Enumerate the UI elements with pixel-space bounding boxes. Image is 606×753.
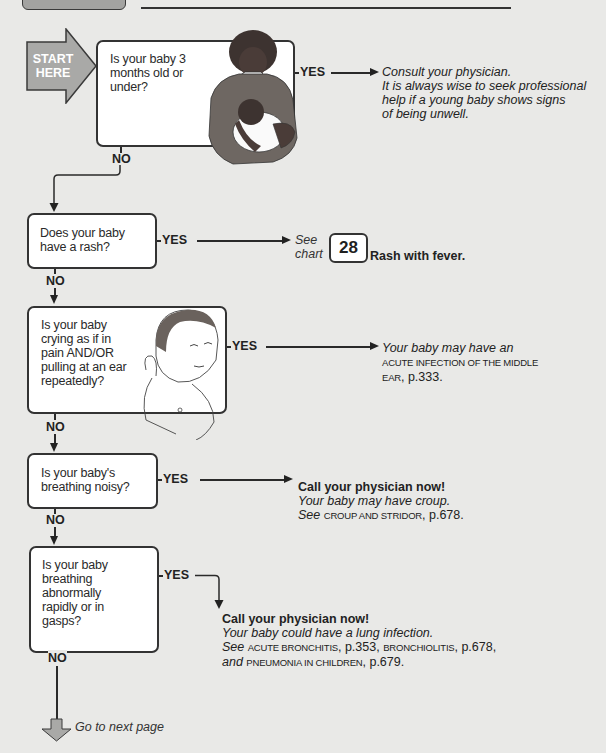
no-label-noisy-breathing: NO: [46, 513, 65, 527]
yes-line-noisy-breathing: [200, 479, 284, 481]
yes-line-age: [331, 72, 371, 74]
baby-pulling-ear-illustration: [136, 300, 228, 440]
chart-number-badge[interactable]: 28: [329, 233, 368, 263]
no-label-rash: NO: [46, 274, 65, 288]
yes-label-age: YES: [300, 65, 325, 79]
arrow-right-icon: [282, 236, 291, 244]
answer-rapid-breathing: Call your physician now! Your baby could…: [222, 612, 522, 670]
yes-label-ear: YES: [232, 339, 257, 353]
yes-connector-stub: [158, 479, 162, 481]
start-here-label: START HERE: [30, 52, 76, 80]
question-text-age: Is your baby 3 months old or under?: [110, 52, 186, 94]
next-page-arrow-icon[interactable]: [41, 718, 73, 742]
yes-label-rapid-breathing: YES: [164, 568, 189, 582]
question-text-noisy-breathing: Is your baby's breathing noisy?: [41, 466, 130, 494]
arrow-down-icon: [50, 443, 58, 452]
arrow-right-icon: [370, 342, 379, 350]
yes-connector-stub: [227, 346, 231, 348]
arrow-down-icon: [50, 295, 58, 304]
yes-connector-stub: [295, 72, 299, 74]
arrow-down-icon: [50, 536, 58, 545]
yes-connector-stub: [159, 575, 163, 577]
header-rule: [141, 7, 511, 9]
answer-noisy-breathing: Call your physician now! Your baby may h…: [298, 480, 558, 523]
yes-line-rash: [197, 240, 282, 242]
question-text-rapid-breathing: Is your baby breathing abnormally rapidl…: [42, 558, 108, 628]
arrow-right-icon: [284, 475, 293, 483]
mother-holding-baby-illustration: [203, 28, 299, 168]
answer-age: Consult your physician. It is always wis…: [382, 65, 606, 121]
no-label-ear: NO: [46, 420, 65, 434]
question-text-ear: Is your baby crying as if in pain AND/OR…: [41, 318, 127, 388]
next-page-link[interactable]: Go to next page: [75, 720, 164, 734]
yes-connector-stub: [157, 240, 161, 242]
yes-line-ear: [266, 346, 370, 348]
no-label-rapid-breathing: NO: [48, 650, 67, 666]
question-text-rash: Does your baby have a rash?: [40, 226, 125, 254]
section-tab: [22, 0, 126, 10]
yes-label-noisy-breathing: YES: [163, 472, 188, 486]
chart-title-link[interactable]: Rash with fever.: [370, 249, 465, 263]
arrow-right-icon: [370, 68, 379, 76]
no-path-age: [48, 165, 128, 215]
answer-ear: Your baby may have an ACUTE INFECTION OF…: [382, 341, 592, 385]
no-line-rapid-breathing: [56, 666, 58, 721]
yes-label-rash: YES: [162, 233, 187, 247]
see-chart-text: See chart: [295, 233, 323, 261]
no-label-age: NO: [112, 152, 131, 166]
yes-path-rapid-breathing: [193, 570, 227, 612]
